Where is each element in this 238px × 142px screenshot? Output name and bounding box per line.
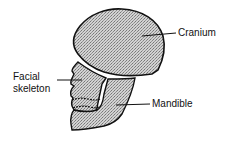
- mandible-label: Mandible: [152, 98, 193, 110]
- cranium-label: Cranium: [178, 27, 216, 39]
- skull-diagram: Cranium Facial skeleton Mandible: [0, 0, 238, 142]
- cranium-shape: [74, 9, 164, 76]
- facial-skeleton-label-line2: skeleton: [13, 83, 50, 95]
- facial-skeleton-label-line1: Facial: [13, 71, 40, 83]
